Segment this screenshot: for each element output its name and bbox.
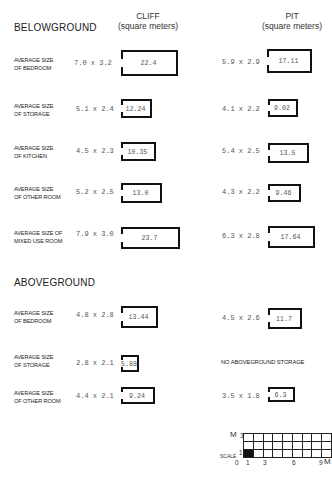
cliff-area: 13.44 (121, 314, 156, 321)
label-line2: OF BEDROOM (14, 317, 53, 325)
scale-label: SCALE (220, 453, 236, 459)
scale-unit-x: M (324, 457, 331, 466)
label-line2: OF STORAGE (14, 361, 53, 369)
pit-dimensions: 4.1 x 2.2 (222, 105, 260, 113)
row-label-other-room: AVERAGE SIZE OF OTHER ROOM (14, 389, 61, 405)
pit-dimensions: 4.3 x 2.2 (222, 188, 260, 196)
cliff-area: 12.24 (121, 105, 150, 112)
cliff-area: 23.7 (121, 235, 178, 242)
label-line1: AVERAGE SIZE (14, 389, 61, 397)
row-label-bedroom: AVERAGE SIZE OF BEDROOM (14, 309, 53, 325)
scale-x-tick-6: 6 (292, 459, 296, 466)
label-line2: MIXED USE ROOM (14, 237, 62, 245)
scale-x-tick-0: 0 (235, 459, 239, 466)
pit-area: 13.5 (268, 150, 307, 157)
label-line2: OF OTHER ROOM (14, 193, 61, 201)
pit-above-bedroom-plan: 11.7 (268, 308, 302, 329)
cliff-area: 13.0 (121, 190, 160, 197)
label-line1: AVERAGE SIZE OF (14, 229, 62, 237)
cliff-mixed-use-plan: 23.7 (121, 227, 180, 249)
cliff-area: 5.88 (121, 360, 137, 367)
row-label-mixed-use-room: AVERAGE SIZE OF MIXED USE ROOM (14, 229, 62, 245)
pit-area: 6.3 (268, 391, 293, 398)
pit-bedroom-plan: 17.11 (267, 49, 312, 73)
scale-x-tick-3: 3 (263, 459, 267, 466)
cliff-bedroom-plan: 22.4 (121, 50, 178, 76)
no-aboveground-storage-note: NO ABOVEGROUND STORAGE (221, 359, 304, 365)
cliff-dimensions: 7.9 x 3.0 (76, 230, 114, 238)
pit-units: (square meters) (252, 21, 332, 31)
label-line2: OF KITCHEN (14, 152, 53, 160)
row-label-storage: AVERAGE SIZE OF STORAGE (14, 353, 53, 369)
row-label-storage: AVERAGE SIZE OF STORAGE (14, 102, 53, 118)
section-title-aboveground: ABOVEGROUND (14, 277, 95, 288)
cliff-area: 10.35 (121, 148, 154, 155)
label-line1: AVERAGE SIZE (14, 102, 53, 110)
pit-mixed-use-plan: 17.64 (268, 226, 315, 248)
cliff-units: (square meters) (108, 21, 188, 31)
cliff-area: 9.24 (121, 392, 153, 399)
cliff-dimensions: 4.4 x 2.1 (76, 392, 114, 400)
pit-area: 9.46 (268, 190, 299, 197)
label-line1: AVERAGE SIZE (14, 353, 53, 361)
cliff-above-other-room-plan: 9.24 (121, 387, 155, 404)
row-label-other-room: AVERAGE SIZE OF OTHER ROOM (14, 185, 61, 201)
pit-storage-plan: 9.02 (268, 99, 298, 117)
cliff-area: 22.4 (121, 60, 176, 67)
scale-x-tick-9: 9 (319, 459, 323, 466)
scale-grid (243, 433, 332, 458)
label-line1: AVERAGE SIZE (14, 56, 53, 64)
pit-area: 17.11 (267, 58, 310, 65)
cliff-dimensions: 7.0 x 3.2 (74, 59, 112, 67)
label-line1: AVERAGE SIZE (14, 309, 53, 317)
pit-area: 11.7 (268, 315, 300, 322)
column-header-cliff: CLIFF (square meters) (108, 11, 188, 31)
cliff-other-room-plan: 13.0 (121, 183, 162, 203)
label-line1: AVERAGE SIZE (14, 185, 61, 193)
column-header-pit: PIT (square meters) (252, 11, 332, 31)
cliff-dimensions: 2.8 x 2.1 (76, 359, 114, 367)
pit-dimensions: 6.3 x 2.8 (222, 232, 260, 240)
pit-dimensions: 5.9 x 2.9 (222, 58, 260, 66)
pit-dimensions: 5.4 x 2.5 (222, 147, 260, 155)
scale-legend: M 3 SCALE 1 0 1 3 6 9 M (222, 430, 332, 470)
label-line2: OF OTHER ROOM (14, 397, 61, 405)
pit-area: 17.64 (268, 234, 313, 241)
scale-x-tick-1: 1 (246, 459, 250, 466)
cliff-dimensions: 5.1 x 2.4 (76, 105, 114, 113)
cliff-dimensions: 4.5 x 2.3 (76, 147, 114, 155)
cliff-above-storage-plan: 5.88 (121, 355, 139, 372)
pit-dimensions: 4.5 x 2.6 (222, 314, 260, 322)
cliff-title: CLIFF (108, 11, 188, 21)
cliff-kitchen-plan: 10.35 (121, 142, 156, 161)
scale-unit-y: M (230, 430, 237, 439)
row-label-kitchen: AVERAGE SIZE OF KITCHEN (14, 144, 53, 160)
label-line1: AVERAGE SIZE (14, 144, 53, 152)
cliff-dimensions: 5.2 x 2.5 (76, 188, 114, 196)
section-title-belowground: BELOWGROUND (14, 22, 97, 33)
pit-other-room-plan: 9.46 (268, 184, 301, 202)
cliff-storage-plan: 12.24 (121, 99, 152, 118)
label-line2: OF BEDROOM (14, 64, 53, 72)
cliff-dimensions: 4.8 x 2.8 (76, 311, 114, 319)
scale-unit-square (244, 450, 254, 458)
label-line2: OF STORAGE (14, 110, 53, 118)
pit-title: PIT (252, 11, 332, 21)
pit-above-other-room-plan: 6.3 (268, 387, 295, 402)
pit-area: 9.02 (268, 105, 296, 112)
cliff-above-bedroom-plan: 13.44 (121, 306, 158, 328)
pit-kitchen-plan: 13.5 (268, 143, 309, 163)
row-label-bedroom: AVERAGE SIZE OF BEDROOM (14, 56, 53, 72)
pit-dimensions: 3.5 x 1.8 (222, 392, 260, 400)
